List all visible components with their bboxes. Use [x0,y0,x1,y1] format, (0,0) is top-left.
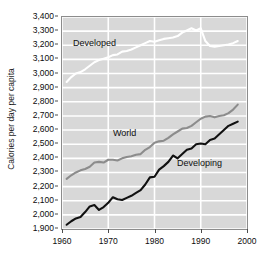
y-axis-tick-label: 2,700 [33,110,54,120]
y-axis-tick-label: 3,300 [33,25,54,35]
y-axis-tick-label: 3,200 [33,39,54,49]
y-axis-tick-label: 2,600 [33,124,54,134]
x-axis-tick-labels: 19601970198019902000 [61,233,248,249]
y-axis-tick-label: 2,200 [33,181,54,191]
y-axis-tick-label: 1,900 [33,223,54,233]
y-axis-tick-mark [55,171,58,172]
y-axis-tick-label: 3,000 [33,68,54,78]
y-axis-tick-label: 2,900 [33,82,54,92]
y-axis-tick-mark [55,228,58,229]
x-axis-tick-mark [247,229,248,233]
y-axis-tick-mark [55,213,58,214]
y-axis-tick-mark [55,114,58,115]
y-axis-tick-mark [55,30,58,31]
x-axis-tick-mark [201,229,202,233]
plot-svg [62,17,247,229]
x-axis-tick-label: 1960 [53,236,72,246]
y-axis-tick-mark [55,44,58,45]
y-axis-tick-label: 2,400 [33,152,54,162]
y-axis-tick-mark [55,185,58,186]
plot-area [61,16,248,230]
grid-lines [62,17,247,229]
x-axis-tick-mark [155,229,156,233]
x-axis-tick-label: 1970 [99,236,118,246]
y-axis-title: Calories per day per capita [0,0,22,238]
y-axis-tick-mark [55,16,58,17]
y-axis-tick-label: 3,100 [33,53,54,63]
y-axis-tick-mark [55,129,58,130]
y-axis-tick-mark [55,143,58,144]
x-axis-tick-label: 1990 [191,236,210,246]
calories-per-capita-line-chart: Calories per day per capita 1,9002,0002,… [0,0,266,262]
series-lines [67,28,238,224]
y-axis-tick-mark [55,72,58,73]
y-axis-tick-labels: 1,9002,0002,1002,2002,3002,4002,5002,600… [20,12,58,230]
y-axis-tick-label: 2,000 [33,209,54,219]
y-axis-tick-mark [55,199,58,200]
x-axis-tick-label: 2000 [238,236,257,246]
y-axis-title-label: Calories per day per capita [6,68,16,170]
y-axis-tick-label: 2,100 [33,195,54,205]
y-axis-tick-label: 2,500 [33,138,54,148]
x-axis-tick-mark [108,229,109,233]
y-axis-tick-mark [55,86,58,87]
y-axis-tick-mark [55,157,58,158]
y-axis-tick-mark [55,100,58,101]
x-axis-tick-mark [62,229,63,233]
y-axis-tick-mark [55,58,58,59]
x-axis-tick-label: 1980 [145,236,164,246]
y-axis-tick-label: 2,800 [33,96,54,106]
y-axis-tick-label: 3,400 [33,11,54,21]
y-axis-tick-label: 2,300 [33,166,54,176]
